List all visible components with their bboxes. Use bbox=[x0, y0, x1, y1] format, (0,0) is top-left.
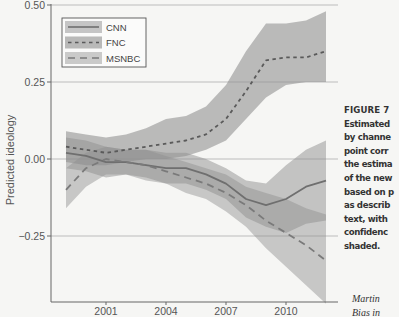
legend: CNNFNCMSNBC bbox=[62, 18, 146, 67]
legend-label-fnc: FNC bbox=[106, 37, 126, 48]
y-axis-ticks: 0.500.250.00−0.25 bbox=[18, 0, 51, 242]
source-line: Martin bbox=[352, 292, 380, 306]
y-axis-title: Predicted ideology bbox=[4, 114, 16, 205]
legend-label-cnn: CNN bbox=[106, 22, 127, 33]
caption-line: confidenc bbox=[344, 226, 399, 240]
caption-line: of the new bbox=[344, 172, 399, 186]
figure-caption: FIGURE 7 Estimatedby channepoint corrthe… bbox=[344, 104, 399, 254]
caption-line: Estimated bbox=[344, 118, 399, 132]
caption-line: based on p bbox=[344, 186, 399, 200]
x-tick-label: 2010 bbox=[274, 305, 298, 317]
caption-line: by channe bbox=[344, 131, 399, 145]
y-tick-label: 0.50 bbox=[25, 0, 46, 11]
x-axis-ticks: 2001200420072010 bbox=[94, 302, 298, 317]
caption-text: Estimatedby channepoint corrthe estimaof… bbox=[344, 118, 399, 254]
y-tick-label: 0.00 bbox=[25, 153, 46, 165]
legend-label-msnbc: MSNBC bbox=[106, 53, 140, 64]
figure-label: FIGURE 7 bbox=[344, 104, 399, 118]
caption-line: shaded. bbox=[344, 240, 399, 254]
caption-line: the estima bbox=[344, 158, 399, 172]
caption-line: text, with bbox=[344, 213, 399, 227]
x-tick-label: 2001 bbox=[94, 305, 118, 317]
caption-line: point corr bbox=[344, 145, 399, 159]
x-tick-label: 2004 bbox=[154, 305, 178, 317]
y-tick-label: −0.25 bbox=[18, 230, 45, 242]
caption-line: as describ bbox=[344, 199, 399, 213]
source-line: Bias in bbox=[352, 306, 380, 317]
source-citation: MartinBias in bbox=[352, 292, 380, 317]
x-tick-label: 2007 bbox=[214, 305, 238, 317]
y-tick-label: 0.25 bbox=[25, 76, 46, 88]
